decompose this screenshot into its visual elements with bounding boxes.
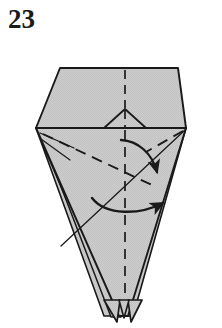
kite-body-face: [36, 128, 186, 316]
paper-body-group: [36, 68, 186, 317]
bottom-tip-right: [128, 300, 142, 322]
hexagonal-top-flap: [36, 68, 186, 128]
origami-diagram: [0, 0, 222, 328]
origami-figure-container: 23: [0, 0, 222, 328]
layered-bottom-tips: [104, 300, 142, 322]
